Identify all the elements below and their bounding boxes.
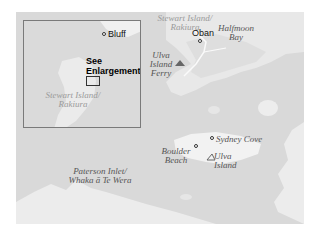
label-line-2: Bay (212, 33, 260, 42)
label-line-2: Beach (159, 156, 193, 165)
callout-line-1: See (86, 56, 141, 66)
label-line-2: Whaka ā Te Wera (50, 176, 150, 185)
enlargement-area-box (86, 76, 100, 86)
label-line-3: Ferry (146, 69, 176, 78)
label-paterson-inlet: Paterson Inlet/ Whaka ā Te Wera (50, 167, 150, 185)
map: Bluff See Enlargement Stewart Island/ Ra… (16, 12, 304, 224)
sydney-cove-icon (210, 136, 214, 140)
label-sydney-cove: Sydney Cove (216, 135, 262, 144)
ferry-icon (174, 59, 186, 67)
oban-town-dot (198, 39, 202, 43)
see-enlargement-callout: See Enlargement (86, 56, 141, 76)
inset-label-line-2: Rakiura (38, 100, 108, 109)
label-boulder-beach: Boulder Beach (159, 147, 193, 165)
label-halfmoon-bay: Halfmoon Bay (212, 24, 260, 42)
callout-line-2: Enlargement (86, 66, 141, 76)
inset-locator-map: Bluff See Enlargement Stewart Island/ Ra… (23, 20, 141, 128)
beach-icon (194, 144, 198, 148)
label-ulva-island: Ulva Island (214, 152, 244, 170)
town-label-oban: Oban (192, 29, 214, 38)
label-ulva-island-ferry: Ulva Island Ferry (146, 51, 176, 78)
inset-label-stewart-island: Stewart Island/ Rakiura (38, 91, 108, 109)
town-label-bluff: Bluff (108, 30, 126, 39)
bluff-town-dot (102, 32, 106, 36)
label-line-2: Island (214, 161, 244, 170)
